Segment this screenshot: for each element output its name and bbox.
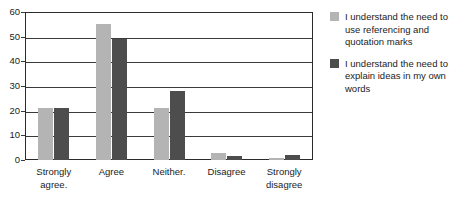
legend-label-series-1: I understand the need to use referencing…	[345, 11, 454, 49]
y-tick-label: 0	[15, 155, 20, 165]
chart-legend: I understand the need to use referencing…	[330, 11, 454, 104]
bar[interactable]	[285, 155, 300, 160]
bar[interactable]	[154, 108, 169, 160]
bar[interactable]	[38, 108, 53, 160]
bar-group	[96, 12, 127, 160]
x-tick-label: Strongly agree.	[25, 166, 83, 191]
bar[interactable]	[54, 108, 69, 160]
legend-swatch-series-2	[330, 59, 339, 68]
x-axis: Strongly agree.AgreeNeither.DisagreeStro…	[25, 166, 313, 202]
y-tick-label: 30	[9, 81, 20, 91]
bar[interactable]	[170, 91, 185, 160]
bar-group	[38, 12, 69, 160]
bar[interactable]	[112, 39, 127, 160]
y-tick-label: 40	[9, 56, 20, 66]
bars-layer	[25, 12, 313, 160]
bar-chart: 0102030405060 Strongly agree.AgreeNeithe…	[0, 0, 456, 202]
bar[interactable]	[269, 158, 284, 160]
y-tick-label: 50	[9, 32, 20, 42]
bar-group	[154, 12, 185, 160]
bar[interactable]	[227, 156, 242, 160]
legend-item[interactable]: I understand the need to explain ideas i…	[330, 58, 454, 96]
bar-group	[269, 12, 300, 160]
y-tick-label: 20	[9, 106, 20, 116]
y-tick-mark	[21, 160, 25, 161]
legend-label-series-2: I understand the need to explain ideas i…	[345, 58, 454, 96]
legend-swatch-series-1	[330, 12, 339, 21]
bar[interactable]	[211, 153, 226, 160]
y-tick-label: 10	[9, 130, 20, 140]
x-tick-label: Disagree	[198, 166, 256, 179]
x-tick-label: Neither.	[140, 166, 198, 179]
bar-group	[211, 12, 242, 160]
x-tick-label: Strongly disagree	[255, 166, 313, 191]
y-axis: 0102030405060	[0, 0, 25, 202]
legend-item[interactable]: I understand the need to use referencing…	[330, 11, 454, 49]
y-tick-label: 60	[9, 7, 20, 17]
x-tick-label: Agree	[83, 166, 141, 179]
bar[interactable]	[96, 24, 111, 160]
